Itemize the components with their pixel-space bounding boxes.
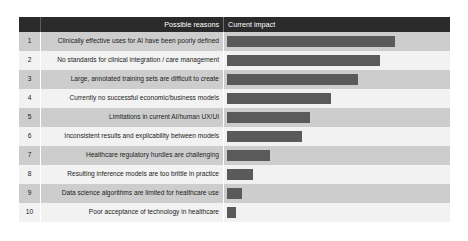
row-reason-label: Inconsistent results and explicability b… (41, 127, 224, 146)
column-header-possible-reasons: Possible reasons (41, 17, 224, 32)
row-number: 9 (19, 184, 41, 203)
row-impact-cell (224, 32, 451, 51)
row-impact-cell (224, 70, 451, 89)
table-header: Possible reasons Current impact (19, 17, 450, 32)
column-header-current-impact: Current impact (224, 17, 451, 32)
table-row: 7Healthcare regulatory hurdles are chall… (19, 146, 450, 165)
row-impact-cell (224, 89, 451, 108)
row-impact-cell (224, 203, 451, 222)
table-row: 2No standards for clinical integration /… (19, 51, 450, 70)
row-number: 10 (19, 203, 41, 222)
impact-bar (227, 112, 310, 123)
table-body: 1Clinically effective uses for AI have b… (19, 32, 450, 222)
row-number: 7 (19, 146, 41, 165)
impact-bar (227, 150, 270, 161)
table-row: 6Inconsistent results and explicability … (19, 127, 450, 146)
table-row: 4Currently no successful economic/busine… (19, 89, 450, 108)
row-impact-cell (224, 184, 451, 203)
table-row: 3Large, annotated training sets are diff… (19, 70, 450, 89)
row-reason-label: Currently no successful economic/busines… (41, 89, 224, 108)
table-row: 8Resulting inference models are too brit… (19, 165, 450, 184)
row-number: 4 (19, 89, 41, 108)
row-impact-cell (224, 108, 451, 127)
row-impact-cell (224, 146, 451, 165)
table-row: 1Clinically effective uses for AI have b… (19, 32, 450, 51)
row-reason-label: Healthcare regulatory hurdles are challe… (41, 146, 224, 165)
row-number: 1 (19, 32, 41, 51)
row-reason-label: Clinically effective uses for AI have be… (41, 32, 224, 51)
row-impact-cell (224, 51, 451, 70)
column-header-number (19, 17, 41, 32)
impact-bar (227, 74, 358, 85)
impact-bar (227, 207, 236, 218)
row-reason-label: Limitations in current AI/human UX/UI (41, 108, 224, 127)
row-reason-label: Large, annotated training sets are diffi… (41, 70, 224, 89)
row-reason-label: Data science algorithms are limited for … (41, 184, 224, 203)
row-number: 2 (19, 51, 41, 70)
row-number: 6 (19, 127, 41, 146)
impact-table-container: Possible reasons Current impact 1Clinica… (19, 17, 450, 222)
possible-reasons-impact-table: Possible reasons Current impact 1Clinica… (19, 17, 450, 222)
impact-bar (227, 131, 302, 142)
row-impact-cell (224, 165, 451, 184)
table-header-row: Possible reasons Current impact (19, 17, 450, 32)
table-row: 9Data science algorithms are limited for… (19, 184, 450, 203)
impact-bar (227, 169, 253, 180)
row-reason-label: No standards for clinical integration / … (41, 51, 224, 70)
impact-bar (227, 36, 395, 47)
impact-bar (227, 188, 242, 199)
row-reason-label: Resulting inference models are too britt… (41, 165, 224, 184)
row-impact-cell (224, 127, 451, 146)
table-row: 5Limitations in current AI/human UX/UI (19, 108, 450, 127)
row-reason-label: Poor acceptance of technology in healthc… (41, 203, 224, 222)
table-row: 10Poor acceptance of technology in healt… (19, 203, 450, 222)
impact-bar (227, 55, 380, 66)
impact-bar (227, 93, 331, 104)
row-number: 3 (19, 70, 41, 89)
row-number: 8 (19, 165, 41, 184)
row-number: 5 (19, 108, 41, 127)
